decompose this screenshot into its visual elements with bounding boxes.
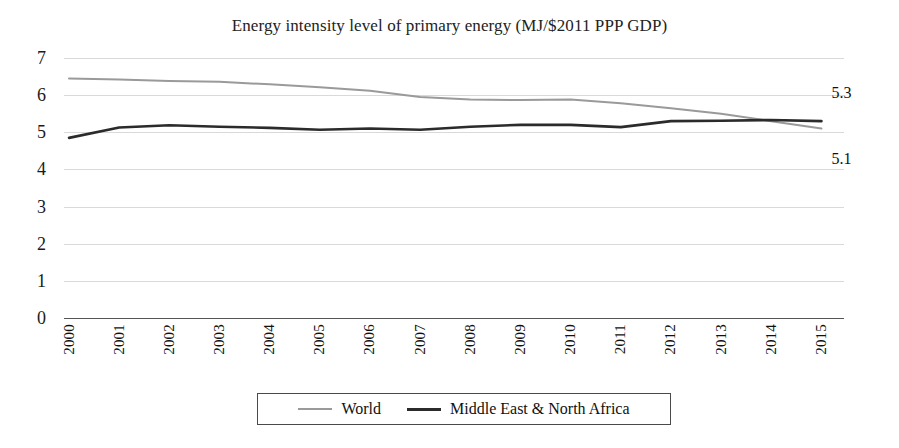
x-tick-label: 2004 [261, 324, 278, 355]
legend-swatch-mena [407, 408, 441, 411]
x-tick-label: 2003 [211, 324, 228, 355]
x-tick-label: 2002 [161, 324, 178, 355]
series-lines [64, 58, 844, 318]
x-tick-label: 2015 [813, 324, 830, 355]
legend-swatch-world [298, 408, 332, 410]
chart-legend: World Middle East & North Africa [257, 393, 671, 425]
y-tick-4: 4 [37, 159, 46, 180]
y-axis-labels: 01234567 [0, 58, 58, 318]
chart-container: Energy intensity level of primary energy… [0, 0, 899, 448]
world-end-value: 5.1 [831, 150, 851, 168]
gridline-0 [64, 318, 844, 319]
y-tick-0: 0 [37, 308, 46, 329]
x-tick-label: 2005 [311, 324, 328, 355]
x-tick-label: 2013 [713, 324, 730, 355]
x-tick-label: 2012 [662, 324, 679, 355]
plot-area [64, 58, 844, 318]
x-tick-label: 2008 [462, 324, 479, 355]
x-tick-label: 2001 [111, 324, 128, 355]
x-tick-label: 2014 [763, 324, 780, 355]
legend-item-world[interactable]: World [298, 400, 381, 418]
chart-title: Energy intensity level of primary energy… [0, 16, 899, 36]
y-tick-6: 6 [37, 85, 46, 106]
y-tick-7: 7 [37, 48, 46, 69]
legend-label-mena: Middle East & North Africa [450, 400, 630, 418]
x-tick-label: 2010 [562, 324, 579, 355]
y-tick-2: 2 [37, 233, 46, 254]
x-tick-label: 2006 [361, 324, 378, 355]
legend-label-world: World [341, 400, 381, 418]
legend-item-mena[interactable]: Middle East & North Africa [407, 400, 630, 418]
y-tick-5: 5 [37, 122, 46, 143]
x-tick-label: 2000 [61, 324, 78, 355]
x-tick-label: 2007 [412, 324, 429, 355]
x-axis-labels: 2000200120022003200420052006200720082009… [64, 322, 844, 384]
y-tick-1: 1 [37, 270, 46, 291]
x-tick-label: 2009 [512, 324, 529, 355]
mena-end-value: 5.3 [831, 84, 851, 102]
series-line-mena [69, 120, 821, 138]
x-tick-label: 2011 [612, 324, 629, 354]
y-tick-3: 3 [37, 196, 46, 217]
